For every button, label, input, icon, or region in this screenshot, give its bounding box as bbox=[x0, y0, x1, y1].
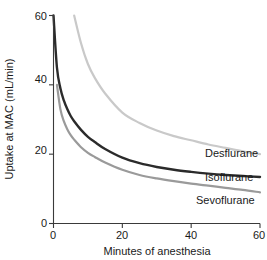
x-axis-title: Minutes of anesthesia bbox=[103, 245, 211, 257]
x-tick-label-20: 20 bbox=[116, 229, 128, 241]
x-tick-label-40: 40 bbox=[185, 229, 197, 241]
chart-canvas: 60 40 20 0 0 20 40 60 Minutes of anesthe… bbox=[0, 0, 267, 260]
y-axis-title: Uptake at MAC (mL/min) bbox=[3, 58, 15, 179]
series-label-isoflurane: Isoflurane bbox=[205, 171, 253, 183]
series-label-sevoflurane: Sevoflurane bbox=[196, 194, 255, 206]
x-tick-label-60: 60 bbox=[253, 229, 265, 241]
y-tick-label-60: 60 bbox=[35, 10, 47, 22]
y-tick-label-20: 20 bbox=[35, 144, 47, 156]
uptake-at-mac-chart: 60 40 20 0 0 20 40 60 Minutes of anesthe… bbox=[0, 0, 267, 260]
y-tick-label-40: 40 bbox=[35, 73, 47, 85]
y-tick-label-0: 0 bbox=[41, 217, 47, 229]
x-tick-label-0: 0 bbox=[50, 229, 56, 241]
series-label-desflurane: Desflurane bbox=[205, 147, 258, 159]
